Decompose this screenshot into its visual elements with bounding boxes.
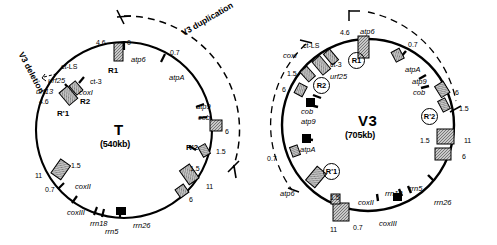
feature-label-11-V3: 11 [330,226,337,233]
feature-label-07-V3: 0.7 [353,224,363,231]
feature-label-15-V3: 1.5 [330,194,340,201]
feature-label-ct3-V3: ct-3 [330,61,342,68]
repeat-badge-Rp2-V3: R'2 [421,108,438,125]
feature-label-15-V3: 1.5 [420,137,430,144]
map-title-T: T [114,122,124,137]
feature-label-urf25-T: urf25 [48,77,65,85]
repeat-badge-Rp1-V3: R'1 [323,163,340,180]
feature-label-15-T: 1.5 [216,148,226,155]
feature-label-15-T: 1.5 [190,165,200,172]
feature-label-07-T: 0.7 [45,186,55,193]
feature-label-6-V3: 6 [282,86,286,93]
feature-label-6-T: 6 [225,128,229,135]
feature-label-11-T: 11 [35,172,42,179]
v3-deletion-arc-right [271,40,312,192]
feature-label-rrn18-T: rrn18 [90,220,108,228]
feature-label-ct3-T: ct-3 [90,78,102,85]
feature-label-atpA-T: atpA [169,74,184,82]
feature-label-coxII-V3: coxII [358,199,374,207]
feature-label-urf25-V3: urf25 [330,73,347,81]
feature-label-R2-T: R'2 [186,144,198,152]
feature-label-atp6-T: atp6 [131,56,146,64]
feature-label-ctLS-T: ct-LS [61,63,77,70]
feature-label-R1-T: R'1 [57,110,69,118]
feature-label-11-V3: 11 [464,137,471,144]
feature-label-rrn26-V3: rrn26 [434,199,452,207]
feature-label-07-V3: 0.7 [408,41,418,48]
feature-label-atp6-V3: atp6 [360,28,375,36]
feature-label-07-V3: 0.7 [267,155,277,162]
feature-label-urf13-T: urf13 [36,88,53,96]
feature-label-6-T: 6 [189,196,193,203]
feature-label-atp9-V3: atp9 [412,78,427,86]
feature-label-atpA-V3: atpA [300,146,315,154]
feature-label-cob-V3: cob [413,89,425,97]
feature-label-ctLS-V3: ct-LS [303,42,319,49]
map-size-T: (540kb) [100,140,130,149]
feature-label-15-T: 1.5 [71,162,81,169]
map-size-V3: (705kb) [345,131,375,140]
feature-label-coxII-T: coxII [75,183,91,191]
feature-label-atp9-T: atp9 [196,103,211,111]
feature-label-atp6-V3: atp6 [280,190,295,198]
feature-label-46-T: 4.6 [96,39,106,46]
feature-label-0-T: 0 [127,39,131,46]
feature-label-46-V3: 4.6 [340,29,350,36]
feature-label-6-V3: 6 [455,89,459,96]
feature-label-rrn26-T: rrn26 [133,222,151,230]
feature-label-cob-T: cob [198,114,210,122]
feature-label-rrn18-V3: rrn18 [385,190,403,198]
feature-label-15-V3: 1.5 [459,105,469,112]
rrn26-block-T [116,207,126,215]
feature-label-coxIII-V3: coxIII [379,220,397,228]
feature-label-07-T: 0.7 [170,49,180,56]
repeat-badge-R2-V3: R2 [313,77,330,94]
feature-label-cob-V3: cob [301,108,313,116]
v3-duplication-arc-right [349,10,461,112]
feature-label-15-V3: 1.5 [287,70,297,77]
map-title-V3: V3 [358,113,377,128]
feature-label-atpA-V3: atpA [405,66,420,74]
feature-label-coxI-V3: coxI [283,52,297,60]
feature-label-11-T: 11 [206,183,213,190]
feature-label-rrn5-T: rrn5 [105,228,118,236]
feature-label-coxI-T: coxI [79,89,93,97]
feature-label-46-T: 4.6 [39,98,49,105]
feature-label-rrn5-V3: rrn5 [409,185,422,193]
feature-label-6-V3: 6 [462,153,466,160]
feature-label-coxIII-T: coxIII [67,209,85,217]
repeat-badge-R1-V3: R1 [348,52,365,69]
feature-label-atp9-V3: atp9 [301,118,316,126]
feature-label-R1-T: R1 [108,67,118,75]
feature-label-R2-T: R2 [80,98,90,106]
